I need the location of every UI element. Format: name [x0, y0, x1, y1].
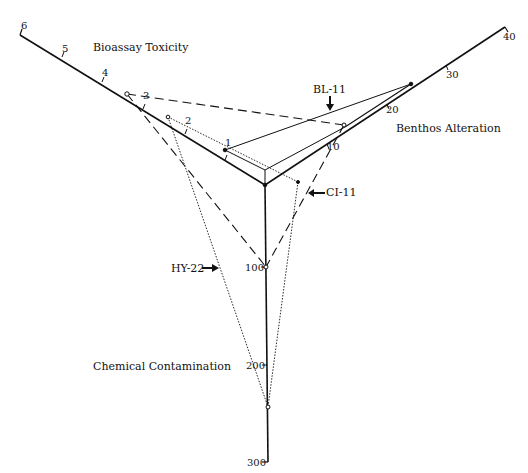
tick-t30: 30 — [446, 69, 459, 80]
ci-11-arrow-icon — [308, 189, 325, 197]
tick-b5: 5 — [62, 43, 68, 54]
tick-b3: 3 — [143, 90, 149, 101]
tick-t20: 20 — [386, 104, 399, 115]
bioassay-label: Bioassay Toxicity — [93, 41, 189, 54]
bl-11-label: BL-11 — [313, 83, 346, 96]
bioassay-axis — [20, 35, 265, 185]
benthos-label: Benthos Alteration — [396, 122, 501, 135]
tick-b4: 4 — [102, 67, 108, 78]
tick-b6: 6 — [21, 20, 27, 31]
bl-11-arrow-icon — [326, 96, 334, 111]
benthos-axis — [265, 27, 505, 185]
tick-c200: 200 — [246, 360, 265, 371]
tick-b2: 2 — [185, 115, 191, 126]
tick-c300: 300 — [247, 457, 266, 468]
tick-t40: 40 — [503, 31, 516, 42]
tick-b1: 1 — [225, 137, 231, 148]
tick-c100: 100 — [245, 262, 264, 273]
hy-22-arrow-icon — [202, 264, 219, 272]
ci-11-label: CI-11 — [326, 186, 356, 199]
triaxial-diagram: Bioassay Toxicity Benthos Alteration Che… — [0, 0, 528, 473]
axes — [20, 27, 508, 462]
hy-22-label: HY-22 — [171, 262, 204, 275]
chemical-axis — [265, 185, 268, 462]
tick-t10: 10 — [327, 141, 340, 152]
chemical-label: Chemical Contamination — [93, 360, 231, 373]
